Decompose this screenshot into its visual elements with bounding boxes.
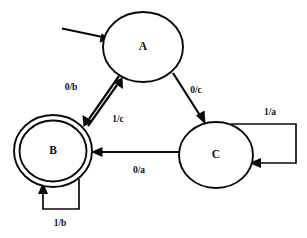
state-c[interactable]: C xyxy=(179,122,253,188)
transition-a-to-c: 0/c xyxy=(173,73,206,125)
start-arrow-shaft xyxy=(62,29,105,38)
self-loop-b-label: 1/b xyxy=(54,218,67,228)
state-a[interactable]: A xyxy=(103,12,183,82)
state-diagram-canvas: 0/c 0/a 0/b 1/c 1/a xyxy=(0,0,307,238)
state-b[interactable]: B xyxy=(14,115,92,187)
transition-b-to-a: 1/c xyxy=(88,77,124,126)
fsm-svg: 0/c 0/a 0/b 1/c 1/a xyxy=(0,0,307,238)
transition-c-to-b-label: 0/a xyxy=(133,165,145,175)
state-c-label: C xyxy=(212,148,220,160)
transition-b-to-a-label: 1/c xyxy=(112,114,124,124)
state-b-label: B xyxy=(49,144,57,156)
state-a-label: A xyxy=(139,40,148,52)
transition-c-to-b: 0/a xyxy=(91,147,180,175)
transition-a-to-c-label: 0/c xyxy=(190,85,202,95)
self-loop-c-label: 1/a xyxy=(264,107,276,117)
transition-a-to-b-label: 0/b xyxy=(65,82,78,92)
